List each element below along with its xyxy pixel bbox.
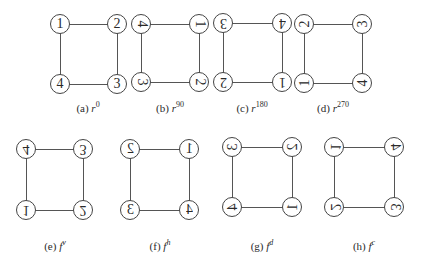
panel-caption: (d) r270 xyxy=(317,100,349,114)
vertex-label: 3 xyxy=(127,203,134,217)
vertex-label: 4 xyxy=(279,16,286,30)
vertex-label: 2 xyxy=(297,21,311,28)
vertex-node-br: 2 xyxy=(189,72,209,92)
vertex-node-tl: 4 xyxy=(131,14,151,34)
vertex-label: 1 xyxy=(186,142,193,156)
vertex-node-tl: 4 xyxy=(16,139,36,159)
vertex-node-tl: 2 xyxy=(120,139,140,159)
vertex-node-tl: 3 xyxy=(213,13,233,33)
vertex-label: 1 xyxy=(297,80,311,87)
caption-label: (b) xyxy=(156,102,169,114)
vertex-node-bl: 1 xyxy=(16,200,36,220)
caption-superscript: c xyxy=(372,238,376,247)
caption-superscript: v xyxy=(62,238,66,247)
vertex-label: 4 xyxy=(225,204,239,211)
vertex-node-tl: 3 xyxy=(222,137,242,157)
vertex-node-br: 3 xyxy=(107,74,127,94)
vertex-label: 3 xyxy=(355,21,369,28)
caption-superscript: 0 xyxy=(96,100,100,109)
vertex-node-bl: 4 xyxy=(50,74,70,94)
vertex-label: 1 xyxy=(23,203,30,217)
vertex-label: 3 xyxy=(220,16,227,30)
vertex-node-tr: 4 xyxy=(272,13,292,33)
vertex-node-tr: 4 xyxy=(384,137,404,157)
vertex-label: 1 xyxy=(57,17,64,31)
vertex-node-tr: 3 xyxy=(352,14,372,34)
caption-label: (d) xyxy=(317,102,330,114)
vertex-node-tr: 3 xyxy=(73,139,93,159)
vertex-node-bl: 3 xyxy=(120,200,140,220)
vertex-label: 3 xyxy=(114,77,121,91)
caption-label: (c) xyxy=(236,102,248,114)
caption-label: (h) xyxy=(353,240,366,252)
vertex-label: 3 xyxy=(134,79,148,86)
vertex-node-tr: 1 xyxy=(179,139,199,159)
panel-caption: (e) fv xyxy=(44,238,66,252)
vertex-label: 2 xyxy=(220,75,227,89)
caption-superscript: h xyxy=(166,238,170,247)
vertex-node-br: 3 xyxy=(384,197,404,217)
vertex-label: 4 xyxy=(387,144,401,151)
caption-superscript: 90 xyxy=(176,100,184,109)
vertex-node-bl: 1 xyxy=(294,73,314,93)
vertex-node-br: 2 xyxy=(73,200,93,220)
vertex-node-bl: 2 xyxy=(213,72,233,92)
vertex-node-br: 4 xyxy=(352,73,372,93)
panel-caption: (a) r0 xyxy=(76,100,99,114)
caption-superscript: 270 xyxy=(337,100,349,109)
caption-label: (e) xyxy=(44,240,56,252)
vertex-label: 2 xyxy=(327,204,341,211)
vertex-label: 3 xyxy=(225,144,239,151)
vertex-node-tl: 1 xyxy=(324,137,344,157)
vertex-node-br: 1 xyxy=(272,72,292,92)
vertex-node-bl: 4 xyxy=(222,197,242,217)
caption-label: (g) xyxy=(251,240,264,252)
vertex-label: 1 xyxy=(192,21,206,28)
panel-caption: (f) fh xyxy=(150,238,171,252)
vertex-label: 4 xyxy=(57,77,64,91)
caption-superscript: 180 xyxy=(256,100,268,109)
vertex-node-tr: 1 xyxy=(189,14,209,34)
vertex-label: 2 xyxy=(114,17,121,31)
vertex-label: 3 xyxy=(80,142,87,156)
vertex-node-tr: 2 xyxy=(107,14,127,34)
vertex-label: 2 xyxy=(80,203,87,217)
vertex-node-tr: 2 xyxy=(282,137,302,157)
vertex-label: 2 xyxy=(127,142,134,156)
panel-caption: (c) r180 xyxy=(236,100,267,114)
vertex-node-tl: 2 xyxy=(294,14,314,34)
vertex-node-br: 1 xyxy=(282,197,302,217)
vertex-label: 2 xyxy=(192,79,206,86)
vertex-node-bl: 2 xyxy=(324,197,344,217)
panel-caption: (h) fc xyxy=(353,238,375,252)
caption-label: (f) xyxy=(150,240,161,252)
vertex-label: 1 xyxy=(279,75,286,89)
vertex-label: 1 xyxy=(327,144,341,151)
caption-label: (a) xyxy=(76,102,88,114)
vertex-label: 2 xyxy=(285,144,299,151)
vertex-node-br: 4 xyxy=(179,200,199,220)
vertex-label: 3 xyxy=(387,204,401,211)
panel-caption: (b) r90 xyxy=(156,100,184,114)
vertex-label: 4 xyxy=(134,21,148,28)
vertex-node-tl: 1 xyxy=(50,14,70,34)
vertex-label: 4 xyxy=(186,203,193,217)
vertex-label: 4 xyxy=(23,142,30,156)
vertex-node-bl: 3 xyxy=(131,72,151,92)
panel-caption: (g) fd xyxy=(251,238,274,252)
vertex-label: 1 xyxy=(285,204,299,211)
caption-superscript: d xyxy=(269,238,273,247)
vertex-label: 4 xyxy=(355,80,369,87)
